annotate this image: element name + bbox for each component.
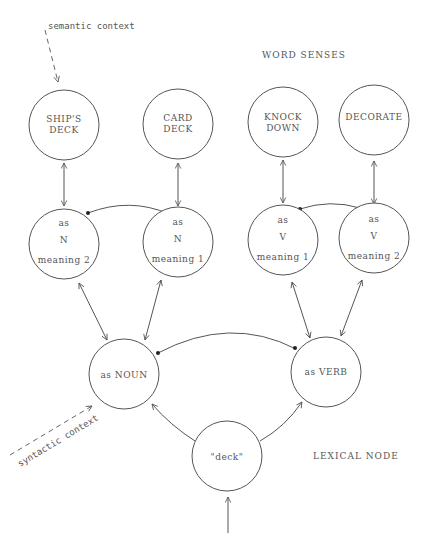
inhibit-n-meanings <box>88 205 169 214</box>
node-ships-deck: SHIP'S DECK <box>29 90 99 160</box>
word-sense-network-diagram: WORD SENSES LEXICAL NODE semantic contex… <box>0 0 426 548</box>
node-v-meaning1: as V meaning 1 <box>248 205 318 275</box>
svg-text:V: V <box>370 231 378 241</box>
semantic-context-arrow <box>45 30 58 82</box>
edge-n-meaning2-as-noun <box>79 283 107 340</box>
svg-text:as: as <box>173 217 184 227</box>
node-decorate: DECORATE <box>339 85 409 155</box>
inhibit-noun-verb <box>158 333 296 353</box>
node-as-noun: as NOUN <box>89 339 159 409</box>
node-card-deck: CARD DECK <box>143 89 213 159</box>
svg-text:V: V <box>279 232 287 242</box>
node-lexical-deck: "deck" <box>192 421 262 491</box>
svg-text:meaning 1: meaning 1 <box>152 254 205 264</box>
svg-text:DECK: DECK <box>49 125 78 135</box>
syntactic-context-annotation: syntactic context <box>10 406 100 469</box>
edge-lexical-as-verb <box>260 402 302 441</box>
edge-v-meaning1-as-verb <box>292 282 310 338</box>
edge-lexical-as-noun <box>152 404 195 441</box>
svg-text:as: as <box>369 214 380 224</box>
svg-text:meaning 2: meaning 2 <box>348 251 401 261</box>
lexical-node-label: LEXICAL NODE <box>313 451 399 461</box>
word-senses-label: WORD SENSES <box>262 50 346 60</box>
svg-text:SHIP'S: SHIP'S <box>46 114 81 124</box>
inhibit-dot <box>293 346 297 350</box>
svg-text:CARD: CARD <box>163 113 192 123</box>
svg-text:meaning 2: meaning 2 <box>38 255 91 265</box>
svg-text:as: as <box>59 218 70 228</box>
syntactic-context-label: syntactic context <box>16 413 100 469</box>
svg-text:N: N <box>60 235 68 245</box>
svg-text:as VERB: as VERB <box>305 367 348 377</box>
edge-n-meaning1-as-noun <box>145 280 161 340</box>
svg-text:"deck": "deck" <box>211 452 244 462</box>
node-n-meaning1: as N meaning 1 <box>143 207 213 277</box>
svg-text:DECORATE: DECORATE <box>345 112 402 122</box>
node-as-verb: as VERB <box>291 337 361 407</box>
svg-text:meaning 1: meaning 1 <box>257 252 310 262</box>
node-v-meaning2: as V meaning 2 <box>339 203 409 273</box>
svg-text:as NOUN: as NOUN <box>100 370 147 380</box>
svg-text:DECK: DECK <box>163 124 192 134</box>
svg-text:N: N <box>174 234 182 244</box>
node-n-meaning2: as N meaning 2 <box>29 209 99 279</box>
inhibit-v-meanings <box>300 204 360 209</box>
svg-text:KNOCK: KNOCK <box>264 112 302 122</box>
semantic-context-label: semantic context <box>48 21 135 31</box>
svg-text:DOWN: DOWN <box>266 123 300 133</box>
inhibit-dot <box>156 351 160 355</box>
node-knock-down: KNOCK DOWN <box>248 87 318 157</box>
inhibit-dot <box>86 211 90 215</box>
edge-v-meaning2-as-verb <box>341 280 362 336</box>
svg-text:as: as <box>278 215 289 225</box>
semantic-context-annotation: semantic context <box>45 21 135 82</box>
